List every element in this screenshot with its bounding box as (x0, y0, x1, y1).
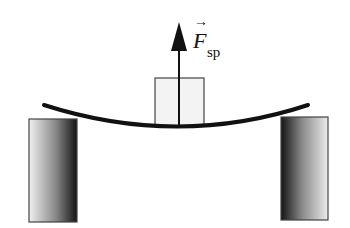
force-subscript: sp (207, 44, 220, 61)
left-support (29, 119, 77, 222)
force-label: F (193, 28, 206, 54)
diagram-canvas (0, 0, 350, 228)
right-support (281, 117, 328, 220)
